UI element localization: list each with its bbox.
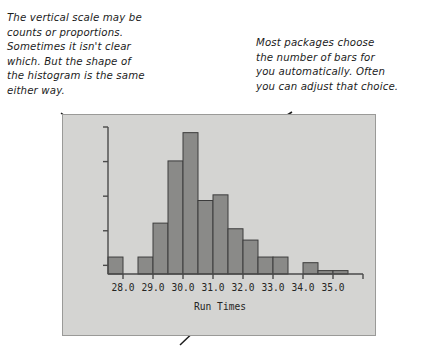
histogram-bar bbox=[303, 263, 318, 274]
histogram-plot: 28.029.030.031.032.033.034.035.0 Run Tim… bbox=[63, 115, 377, 337]
histogram-bar bbox=[243, 240, 258, 274]
x-axis-tick-label: 31.0 bbox=[201, 282, 224, 293]
x-axis-tick-labels: 28.029.030.031.032.033.034.035.0 bbox=[111, 282, 344, 293]
histogram-bar bbox=[138, 257, 153, 274]
histogram-bars bbox=[108, 133, 348, 274]
annotation-number-of-bars: Most packages choose the number of bars … bbox=[256, 36, 436, 94]
x-axis-tick-label: 30.0 bbox=[171, 282, 194, 293]
histogram-bar bbox=[168, 161, 183, 274]
x-axis-tick-label: 32.0 bbox=[231, 282, 254, 293]
histogram-bar bbox=[273, 257, 288, 274]
histogram-bar bbox=[108, 257, 123, 274]
histogram-bar bbox=[153, 223, 168, 274]
histogram-bar bbox=[258, 257, 273, 274]
x-axis-tick-label: 28.0 bbox=[111, 282, 134, 293]
histogram-bar bbox=[183, 133, 198, 274]
x-axis-tick-label: 33.0 bbox=[261, 282, 284, 293]
histogram-bar bbox=[228, 229, 243, 274]
x-axis-title: Run Times bbox=[194, 301, 246, 312]
x-axis-tick-label: 35.0 bbox=[321, 282, 344, 293]
histogram-panel: 28.029.030.031.032.033.034.035.0 Run Tim… bbox=[62, 114, 376, 336]
annotation-vertical-scale: The vertical scale may be counts or prop… bbox=[7, 11, 182, 99]
x-axis-tick-label: 29.0 bbox=[141, 282, 164, 293]
x-axis-tick-label: 34.0 bbox=[291, 282, 314, 293]
histogram-bar bbox=[213, 195, 228, 274]
histogram-bar bbox=[198, 201, 213, 275]
